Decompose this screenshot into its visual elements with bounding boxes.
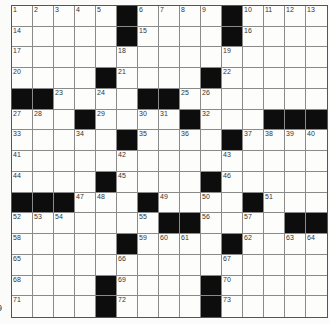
grid-cell[interactable]: 50 xyxy=(201,193,222,214)
grid-cell[interactable] xyxy=(306,296,327,317)
grid-cell[interactable]: 66 xyxy=(117,255,138,276)
grid-cell[interactable] xyxy=(75,255,96,276)
grid-cell[interactable] xyxy=(180,151,201,172)
grid-cell[interactable]: 26 xyxy=(201,89,222,110)
grid-cell[interactable]: 58 xyxy=(12,234,33,255)
grid-cell[interactable]: 39 xyxy=(285,130,306,151)
grid-cell[interactable]: 7 xyxy=(159,6,180,27)
grid-cell[interactable] xyxy=(201,151,222,172)
grid-cell[interactable] xyxy=(75,213,96,234)
grid-cell[interactable] xyxy=(138,68,159,89)
grid-cell[interactable] xyxy=(54,151,75,172)
grid-cell[interactable] xyxy=(222,89,243,110)
grid-cell[interactable]: 37 xyxy=(243,130,264,151)
grid-cell[interactable]: 67 xyxy=(222,255,243,276)
grid-cell[interactable]: 49 xyxy=(159,193,180,214)
grid-cell[interactable]: 73 xyxy=(222,296,243,317)
grid-cell[interactable] xyxy=(75,296,96,317)
grid-cell[interactable] xyxy=(264,213,285,234)
grid-cell[interactable] xyxy=(138,255,159,276)
grid-cell[interactable] xyxy=(306,172,327,193)
grid-cell[interactable] xyxy=(264,234,285,255)
grid-cell[interactable]: 44 xyxy=(12,172,33,193)
grid-cell[interactable] xyxy=(285,68,306,89)
grid-cell[interactable] xyxy=(201,234,222,255)
grid-cell[interactable] xyxy=(159,255,180,276)
grid-cell[interactable]: 19 xyxy=(222,47,243,68)
grid-cell[interactable] xyxy=(180,193,201,214)
grid-cell[interactable]: 11 xyxy=(264,6,285,27)
grid-cell[interactable]: 25 xyxy=(180,89,201,110)
grid-cell[interactable] xyxy=(138,47,159,68)
grid-cell[interactable] xyxy=(264,172,285,193)
grid-cell[interactable] xyxy=(54,27,75,48)
grid-cell[interactable] xyxy=(285,151,306,172)
grid-cell[interactable]: 56 xyxy=(201,213,222,234)
grid-cell[interactable]: 41 xyxy=(12,151,33,172)
grid-cell[interactable] xyxy=(75,68,96,89)
grid-cell[interactable]: 69 xyxy=(117,276,138,297)
grid-cell[interactable] xyxy=(138,296,159,317)
grid-cell[interactable] xyxy=(75,172,96,193)
grid-cell[interactable] xyxy=(117,193,138,214)
grid-cell[interactable]: 62 xyxy=(243,234,264,255)
grid-cell[interactable] xyxy=(180,276,201,297)
grid-cell[interactable] xyxy=(96,255,117,276)
grid-cell[interactable] xyxy=(243,47,264,68)
grid-cell[interactable] xyxy=(54,68,75,89)
grid-cell[interactable] xyxy=(33,276,54,297)
grid-cell[interactable]: 54 xyxy=(54,213,75,234)
grid-cell[interactable] xyxy=(159,130,180,151)
grid-cell[interactable] xyxy=(54,47,75,68)
grid-cell[interactable] xyxy=(285,27,306,48)
grid-cell[interactable]: 8 xyxy=(180,6,201,27)
grid-cell[interactable]: 22 xyxy=(222,68,243,89)
grid-cell[interactable]: 12 xyxy=(285,6,306,27)
grid-cell[interactable] xyxy=(54,110,75,131)
grid-cell[interactable] xyxy=(285,255,306,276)
grid-cell[interactable]: 57 xyxy=(243,213,264,234)
grid-cell[interactable]: 52 xyxy=(12,213,33,234)
grid-cell[interactable]: 18 xyxy=(117,47,138,68)
grid-cell[interactable] xyxy=(264,47,285,68)
grid-cell[interactable]: 4 xyxy=(75,6,96,27)
grid-cell[interactable] xyxy=(285,193,306,214)
grid-cell[interactable] xyxy=(75,276,96,297)
grid-cell[interactable] xyxy=(180,27,201,48)
grid-cell[interactable] xyxy=(54,276,75,297)
grid-cell[interactable]: 30 xyxy=(138,110,159,131)
grid-cell[interactable] xyxy=(201,130,222,151)
grid-cell[interactable] xyxy=(75,151,96,172)
grid-cell[interactable] xyxy=(201,47,222,68)
grid-cell[interactable] xyxy=(96,213,117,234)
grid-cell[interactable] xyxy=(222,193,243,214)
grid-cell[interactable]: 10 xyxy=(243,6,264,27)
grid-cell[interactable]: 34 xyxy=(75,130,96,151)
grid-cell[interactable] xyxy=(33,151,54,172)
grid-cell[interactable] xyxy=(222,110,243,131)
grid-cell[interactable] xyxy=(285,47,306,68)
grid-cell[interactable] xyxy=(285,172,306,193)
grid-cell[interactable] xyxy=(159,276,180,297)
grid-cell[interactable]: 71 xyxy=(12,296,33,317)
grid-cell[interactable] xyxy=(54,172,75,193)
grid-cell[interactable] xyxy=(243,276,264,297)
grid-cell[interactable] xyxy=(33,68,54,89)
grid-cell[interactable] xyxy=(306,276,327,297)
grid-cell[interactable]: 64 xyxy=(306,234,327,255)
grid-cell[interactable] xyxy=(138,172,159,193)
grid-cell[interactable] xyxy=(201,27,222,48)
grid-cell[interactable]: 55 xyxy=(138,213,159,234)
grid-cell[interactable]: 46 xyxy=(222,172,243,193)
grid-cell[interactable]: 24 xyxy=(96,89,117,110)
grid-cell[interactable]: 23 xyxy=(54,89,75,110)
grid-cell[interactable] xyxy=(54,130,75,151)
grid-cell[interactable]: 9 xyxy=(201,6,222,27)
grid-cell[interactable] xyxy=(54,296,75,317)
grid-cell[interactable]: 14 xyxy=(12,27,33,48)
grid-cell[interactable]: 70 xyxy=(222,276,243,297)
grid-cell[interactable] xyxy=(306,151,327,172)
grid-cell[interactable] xyxy=(117,213,138,234)
grid-cell[interactable]: 43 xyxy=(222,151,243,172)
grid-cell[interactable] xyxy=(159,151,180,172)
